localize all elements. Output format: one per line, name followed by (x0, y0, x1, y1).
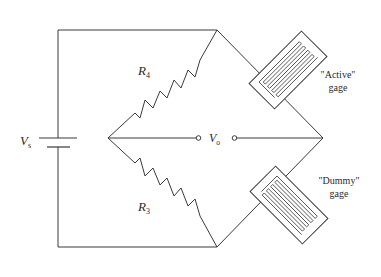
dummy-gage-label-line2: gage (330, 188, 349, 199)
active-strain-gage-icon (249, 31, 327, 109)
output-voltage-label: Vo (209, 131, 220, 147)
active-gage-label-line2: gage (329, 82, 348, 93)
active-gage-label-line1: "Active" (321, 69, 356, 80)
bridge-circuit-diagram: Vs R4 R3 Vo "Active" gage "Dummy" gage (0, 0, 381, 277)
resistor-r3 (108, 138, 217, 247)
r4-label: R4 (137, 63, 150, 80)
battery-icon (39, 128, 77, 147)
resistor-r4 (108, 30, 217, 138)
bottom-wire (58, 147, 217, 247)
top-wire (58, 30, 217, 128)
supply-voltage-label: Vs (20, 133, 31, 150)
output-terminal-right (232, 136, 237, 141)
output-terminal-left (196, 136, 201, 141)
dummy-strain-gage-icon (250, 166, 328, 244)
dummy-gage-label-line1: "Dummy" (319, 175, 360, 186)
r3-label: R3 (137, 199, 150, 216)
